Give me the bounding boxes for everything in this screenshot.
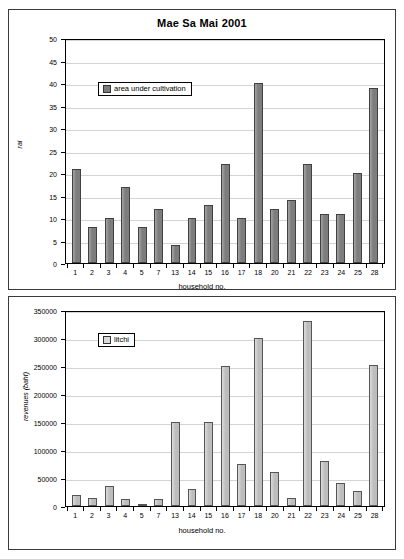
x-tick-label: 23 — [316, 512, 333, 519]
x-tick-label: 1 — [67, 269, 84, 276]
bar — [204, 205, 213, 264]
legend-label: area under cultivation — [114, 85, 186, 93]
bar — [303, 321, 312, 506]
x-tick-label: 7 — [150, 269, 167, 276]
bar — [154, 499, 163, 506]
x-tick-mark — [233, 264, 250, 268]
bar — [287, 200, 296, 263]
bar — [188, 489, 197, 506]
x-tick-mark — [100, 507, 117, 511]
bar — [88, 227, 97, 263]
x-axis-ticks — [65, 507, 385, 511]
x-tick-label: 7 — [150, 512, 167, 519]
bar-slot — [266, 312, 283, 506]
bar-slot — [250, 40, 267, 263]
bar-slot — [283, 40, 300, 263]
x-tick-label: 20 — [267, 269, 284, 276]
x-tick-label: 18 — [250, 269, 267, 276]
chart-cultivation: Mae Sa Mai 2001 rai 05101520253035404550… — [9, 10, 395, 289]
bar — [221, 164, 230, 263]
legend-label: litchi — [114, 336, 129, 344]
x-tick-mark — [167, 264, 184, 268]
bar — [237, 464, 246, 506]
x-tick-mark — [366, 507, 383, 511]
x-axis-title: household no. — [9, 526, 395, 535]
y-tick-label: 100000 — [9, 448, 57, 455]
x-tick-mark — [300, 507, 317, 511]
x-axis-title: household no. — [9, 282, 395, 291]
y-tick-label: 0 — [9, 261, 57, 268]
x-tick-label: 23 — [316, 269, 333, 276]
bar — [336, 214, 345, 264]
x-tick-mark — [283, 264, 300, 268]
bar-slot — [200, 312, 217, 506]
y-tick-label: 50 — [9, 36, 57, 43]
y-tick-mark — [61, 129, 65, 130]
x-tick-label: 14 — [183, 512, 200, 519]
bar-slot — [101, 40, 118, 263]
bar — [237, 218, 246, 263]
y-tick-mark — [61, 242, 65, 243]
x-tick-label: 25 — [350, 269, 367, 276]
x-tick-mark — [84, 507, 101, 511]
bar — [369, 365, 378, 506]
bar-slot — [299, 40, 316, 263]
x-tick-label: 1 — [67, 512, 84, 519]
y-tick-label: 300000 — [9, 336, 57, 343]
bar-slot — [349, 40, 366, 263]
x-tick-label: 17 — [233, 269, 250, 276]
y-tick-mark — [61, 451, 65, 452]
y-tick-label: 250000 — [9, 364, 57, 371]
bar-slot — [151, 312, 168, 506]
x-tick-mark — [233, 507, 250, 511]
x-tick-label: 3 — [100, 512, 117, 519]
x-axis-labels: 12345713141516171820212223242528 — [65, 512, 385, 519]
bar-slot — [184, 312, 201, 506]
legend-cultivation: area under cultivation — [98, 82, 192, 96]
legend-swatch-icon — [103, 336, 111, 344]
y-tick-mark — [61, 219, 65, 220]
x-tick-mark — [134, 264, 151, 268]
x-tick-mark — [300, 264, 317, 268]
bar — [287, 498, 296, 506]
x-tick-label: 25 — [350, 512, 367, 519]
bar — [254, 83, 263, 263]
x-tick-mark — [200, 507, 217, 511]
bar-slot — [299, 312, 316, 506]
x-tick-mark — [67, 264, 84, 268]
bar — [320, 214, 329, 264]
chart-litchi: revenues (baht) 050000100000150000200000… — [9, 297, 395, 549]
bar-slot — [333, 312, 350, 506]
x-tick-label: 15 — [200, 269, 217, 276]
y-tick-mark — [61, 152, 65, 153]
x-tick-label: 22 — [300, 512, 317, 519]
x-tick-label: 2 — [84, 269, 101, 276]
x-tick-label: 16 — [217, 512, 234, 519]
x-tick-label: 21 — [283, 512, 300, 519]
x-tick-label: 18 — [250, 512, 267, 519]
x-tick-mark — [117, 507, 134, 511]
x-tick-mark — [316, 264, 333, 268]
x-tick-mark — [250, 507, 267, 511]
x-tick-mark — [134, 507, 151, 511]
bar-slot — [85, 40, 102, 263]
bar-slot — [68, 312, 85, 506]
bar — [154, 209, 163, 263]
y-tick-label: 350000 — [9, 308, 57, 315]
y-tick-mark — [61, 84, 65, 85]
y-tick-mark — [61, 311, 65, 312]
bar-slot — [233, 312, 250, 506]
bar — [270, 472, 279, 506]
y-tick-mark — [61, 395, 65, 396]
bar — [171, 422, 180, 506]
x-tick-label: 3 — [100, 269, 117, 276]
bar-slot — [134, 312, 151, 506]
x-tick-mark — [217, 507, 234, 511]
x-tick-label: 24 — [333, 512, 350, 519]
x-tick-label: 4 — [117, 512, 134, 519]
y-tick-label: 200000 — [9, 392, 57, 399]
bar — [72, 169, 81, 264]
x-tick-label: 22 — [300, 269, 317, 276]
y-tick-label: 15 — [9, 193, 57, 200]
x-tick-mark — [333, 507, 350, 511]
